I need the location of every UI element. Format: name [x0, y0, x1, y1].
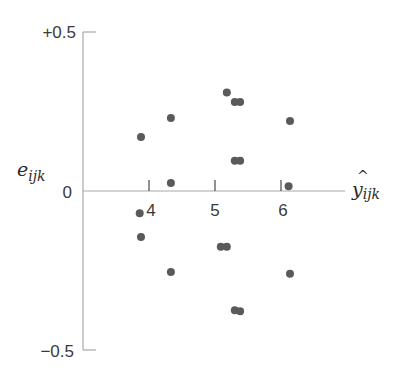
data-point [285, 182, 293, 190]
data-point [223, 88, 231, 96]
x-tick-label-4: 4 [146, 201, 155, 220]
data-point [167, 268, 175, 276]
data-point [167, 114, 175, 122]
data-point [137, 133, 145, 141]
data-point [136, 209, 144, 217]
y-axis: +0.5 0 −0.5 [40, 23, 96, 361]
x-axis: 4 5 6 [83, 180, 345, 220]
data-point [286, 270, 294, 278]
data-point [236, 307, 244, 315]
y-tick-label-bottom: −0.5 [40, 342, 74, 361]
x-tick-label-5: 5 [210, 201, 219, 220]
data-point [286, 117, 294, 125]
y-tick-label-zero: 0 [63, 183, 72, 202]
data-point [137, 233, 145, 241]
data-point [223, 243, 231, 251]
data-point [167, 179, 175, 187]
residual-scatter-plot: +0.5 0 −0.5 eijk 4 5 6 ^ yijk [0, 0, 401, 374]
y-tick-label-top: +0.5 [42, 23, 76, 42]
y-axis-title: eijk [17, 158, 46, 184]
x-tick-label-6: 6 [278, 201, 287, 220]
x-axis-title: ^ yijk [351, 168, 380, 202]
data-point [236, 98, 244, 106]
data-point [236, 157, 244, 165]
